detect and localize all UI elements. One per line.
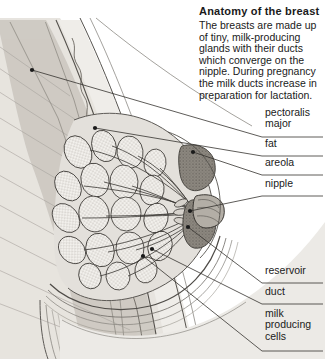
label-pectoralis-major: pectoralis major xyxy=(265,107,310,130)
label-duct: duct xyxy=(265,286,285,297)
label-milk-producing-cells: milk producing cells xyxy=(265,308,311,342)
breast-anatomy-figure: Anatomy of the breast The breasts are ma… xyxy=(0,0,325,359)
figure-intro-paragraph: The breasts are made up of tiny, milk-pr… xyxy=(199,20,323,101)
label-nipple: nipple xyxy=(265,178,293,189)
figure-title: Anatomy of the breast xyxy=(199,5,319,17)
label-fat: fat xyxy=(265,138,277,149)
label-areola: areola xyxy=(265,157,294,168)
label-reservoir: reservoir xyxy=(265,265,306,276)
